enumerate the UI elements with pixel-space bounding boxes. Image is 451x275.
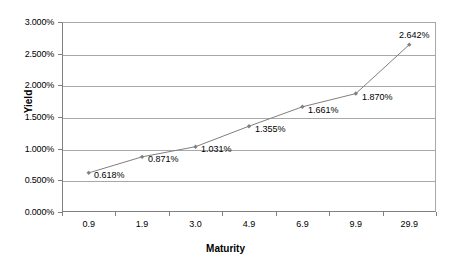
gridline xyxy=(63,181,435,182)
x-tick-mark xyxy=(436,212,437,216)
x-tick-mark xyxy=(169,212,170,216)
data-label: 1.031% xyxy=(201,144,232,154)
y-tick-label: 0.500% xyxy=(0,175,54,185)
y-tick-mark xyxy=(58,180,62,181)
y-tick-mark xyxy=(58,117,62,118)
x-tick-label: 6.9 xyxy=(276,219,329,229)
y-tick-label: 3.000% xyxy=(0,17,54,27)
plot-area xyxy=(62,22,436,212)
x-tick-mark xyxy=(329,212,330,216)
data-label: 2.642% xyxy=(399,30,430,40)
data-label: 0.618% xyxy=(94,170,125,180)
x-tick-mark xyxy=(276,212,277,216)
y-tick-label: 2.500% xyxy=(0,49,54,59)
data-label: 1.870% xyxy=(362,92,393,102)
x-tick-label: 0.9 xyxy=(62,219,115,229)
x-tick-mark xyxy=(115,212,116,216)
x-tick-label: 29.9 xyxy=(383,219,436,229)
x-tick-mark xyxy=(383,212,384,216)
data-label: 1.355% xyxy=(255,124,286,134)
data-label: 0.871% xyxy=(148,154,179,164)
gridline xyxy=(63,86,435,87)
x-tick-mark xyxy=(62,212,63,216)
gridline xyxy=(63,55,435,56)
yield-curve-chart: 3.000% 2.500% 2.000% 1.500% 1.000% 0.500… xyxy=(0,0,451,275)
y-tick-mark xyxy=(58,149,62,150)
y-tick-mark xyxy=(58,22,62,23)
gridline xyxy=(63,150,435,151)
x-tick-mark xyxy=(222,212,223,216)
data-label: 1.661% xyxy=(308,105,339,115)
x-tick-label: 9.9 xyxy=(329,219,382,229)
y-tick-label: 0.000% xyxy=(0,207,54,217)
x-tick-label: 3.0 xyxy=(169,219,222,229)
x-tick-label: 4.9 xyxy=(222,219,275,229)
x-tick-label: 1.9 xyxy=(115,219,168,229)
x-axis-title: Maturity xyxy=(0,243,451,254)
y-tick-label: 1.000% xyxy=(0,144,54,154)
y-tick-mark xyxy=(58,85,62,86)
gridline xyxy=(63,118,435,119)
y-tick-mark xyxy=(58,54,62,55)
y-axis-title: Yield xyxy=(23,72,34,132)
